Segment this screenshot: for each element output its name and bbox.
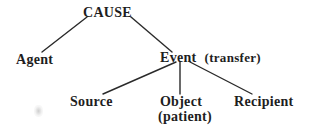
- edge-cause-agent: [42, 17, 87, 52]
- node-recipient: Recipient: [234, 95, 293, 109]
- node-recipient-label: Recipient: [234, 94, 293, 109]
- node-cause-label: CAUSE: [83, 5, 132, 20]
- edge-cause-event: [131, 17, 172, 52]
- node-event-label: Event: [160, 50, 197, 65]
- node-agent: Agent: [16, 53, 53, 67]
- edge-event-source: [103, 62, 176, 94]
- node-event: Event(transfer): [160, 51, 261, 65]
- node-cause: CAUSE: [83, 6, 132, 20]
- node-object-label: Object: [158, 94, 204, 109]
- node-agent-label: Agent: [16, 52, 53, 67]
- cause-event-tree-diagram: CAUSE Agent Event(transfer) Source Objec…: [0, 0, 310, 131]
- node-source-label: Source: [70, 94, 113, 109]
- node-object-annotation: (patient): [158, 109, 204, 124]
- node-event-annotation: (transfer): [205, 50, 261, 65]
- scan-artifact: [34, 105, 43, 117]
- node-object: Object (patient): [158, 94, 204, 124]
- node-source: Source: [70, 95, 113, 109]
- edge-event-recipient: [190, 62, 252, 94]
